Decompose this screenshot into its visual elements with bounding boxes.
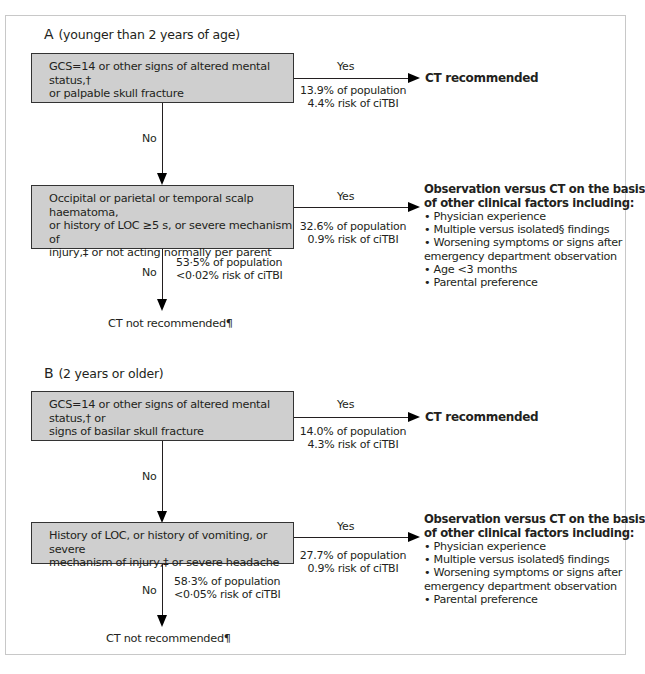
panel-a-no-stats: 53·5% of population <0·02% risk of ciTBI (176, 256, 283, 282)
panel-b-no-label-2: No (142, 584, 157, 597)
arrow-right-icon (408, 532, 420, 542)
criteria-line: mechanism of injury,‡ or severe headache (49, 556, 293, 570)
panel-b-outcome-ct-not-recommended: CT not recommended¶ (106, 632, 231, 645)
population-percent: 13.9% of population (300, 84, 406, 97)
panel-a-yes-stats-1: 13.9% of population 4.4% risk of ciTBI (300, 84, 406, 110)
observation-heading: Observation versus CT on the basis (424, 183, 645, 197)
observation-heading: of other clinical factors including: (424, 197, 645, 211)
criteria-line: or palpable skull fracture (49, 87, 293, 101)
panel-b-yes-label-2: Yes (337, 520, 354, 533)
criteria-line: Occipital or parietal or temporal scalp … (49, 192, 293, 219)
risk-percent: 4.3% risk of ciTBI (298, 438, 408, 451)
panel-a-outcome-ct-not-recommended: CT not recommended¶ (108, 317, 233, 330)
panel-a-criteria-box-1: GCS=14 or other signs of altered mental … (31, 53, 294, 103)
panel-a-title: A(younger than 2 years of age) (44, 26, 240, 42)
panel-b-yes-stats-1: 14.0% of population 4.3% risk of ciTBI (298, 425, 408, 451)
arrow-down-icon (157, 173, 167, 185)
panel-a-criteria-box-2: Occipital or parietal or temporal scalp … (31, 185, 294, 249)
panel-b-no-connector-1 (162, 441, 163, 513)
panel-b-yes-stats-2: 27.7% of population 0.9% risk of ciTBI (298, 549, 408, 575)
panel-b-yes-connector-1 (294, 417, 410, 418)
observation-item: • Physician experience (424, 210, 645, 223)
panel-a-yes-label-1: Yes (337, 60, 354, 73)
observation-item: • Worsening symptoms or signs after (424, 566, 645, 579)
panel-a-outcome-ct-recommended: CT recommended (425, 71, 538, 85)
observation-item: • Physician experience (424, 540, 645, 553)
panel-a-yes-connector-2 (294, 207, 410, 208)
observation-item: • Multiple versus isolated§ findings (424, 553, 645, 566)
population-percent: 14.0% of population (298, 425, 408, 438)
observation-item: emergency department observation (424, 580, 645, 593)
risk-percent: 4.4% risk of ciTBI (300, 97, 406, 110)
criteria-line: signs of basilar skull fracture (49, 425, 293, 439)
criteria-line: GCS=14 or other signs of altered mental … (49, 398, 293, 425)
arrow-right-icon (408, 202, 420, 212)
observation-heading: of other clinical factors including: (424, 527, 645, 541)
panel-b-criteria-box-1: GCS=14 or other signs of altered mental … (31, 391, 294, 441)
population-percent: 27.7% of population (298, 549, 408, 562)
observation-item: • Parental preference (424, 276, 645, 289)
observation-item: • Age <3 months (424, 263, 645, 276)
panel-b-no-stats: 58·3% of population <0·05% risk of ciTBI (174, 575, 281, 601)
arrow-down-icon (157, 615, 167, 627)
panel-a-observation-factors: Observation versus CT on the basis of ot… (424, 183, 645, 289)
panel-b-subtitle: (2 years or older) (58, 366, 163, 381)
panel-b-criteria-box-2: History of LOC, or history of vomiting, … (31, 522, 294, 564)
panel-a-no-label-2: No (142, 266, 157, 279)
criteria-line: or history of LOC ≥5 s, or severe mechan… (49, 219, 293, 246)
observation-item: emergency department observation (424, 250, 645, 263)
panel-a-yes-connector-1 (294, 78, 410, 79)
arrow-right-icon (408, 412, 420, 422)
observation-heading: Observation versus CT on the basis (424, 513, 645, 527)
arrow-down-icon (157, 299, 167, 311)
risk-percent: <0·02% risk of ciTBI (176, 269, 283, 282)
risk-percent: 0.9% risk of ciTBI (298, 562, 408, 575)
population-percent: 32.6% of population (298, 220, 408, 233)
panel-a-subtitle: (younger than 2 years of age) (58, 27, 240, 42)
panel-b-title: B(2 years or older) (44, 365, 164, 381)
panel-b-no-connector-2 (162, 564, 163, 617)
observation-item: • Worsening symptoms or signs after (424, 236, 645, 249)
criteria-line: GCS=14 or other signs of altered mental … (49, 60, 293, 87)
risk-percent: 0.9% risk of ciTBI (298, 233, 408, 246)
panel-b-no-label-1: No (142, 470, 157, 483)
population-percent: 53·5% of population (176, 256, 283, 269)
criteria-line: History of LOC, or history of vomiting, … (49, 529, 293, 556)
risk-percent: <0·05% risk of ciTBI (174, 588, 281, 601)
panel-a-letter: A (44, 26, 53, 42)
observation-item: • Parental preference (424, 593, 645, 606)
panel-a-yes-stats-2: 32.6% of population 0.9% risk of ciTBI (298, 220, 408, 246)
observation-item: • Multiple versus isolated§ findings (424, 223, 645, 236)
arrow-right-icon (408, 73, 420, 83)
panel-b-letter: B (44, 365, 53, 381)
population-percent: 58·3% of population (174, 575, 281, 588)
panel-a-yes-label-2: Yes (337, 190, 354, 203)
panel-b-outcome-ct-recommended: CT recommended (425, 410, 538, 424)
panel-b-observation-factors: Observation versus CT on the basis of ot… (424, 513, 645, 606)
panel-b-yes-connector-2 (294, 537, 410, 538)
panel-b-yes-label-1: Yes (337, 398, 354, 411)
panel-a-no-label-1: No (142, 132, 157, 145)
panel-a-no-connector-2 (162, 249, 163, 301)
panel-a-no-connector-1 (162, 103, 163, 175)
